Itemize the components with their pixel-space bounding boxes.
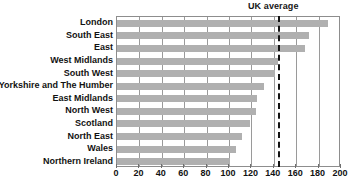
bar-series: [117, 17, 339, 166]
x-tick-label: 20: [133, 168, 143, 178]
uk-average-annotation-label: UK average: [248, 1, 299, 11]
x-tick-label: 180: [310, 168, 325, 178]
category-label: Scotland: [75, 118, 113, 128]
category-label: East Midlands: [52, 93, 113, 103]
x-tick-label: 40: [156, 168, 166, 178]
category-label: Wales: [87, 143, 113, 153]
category-label: North West: [65, 105, 113, 115]
bar-row: [117, 108, 339, 115]
bar-chart: UK average LondonSouth EastEastWest Midl…: [0, 0, 355, 191]
category-label: South East: [66, 30, 113, 40]
bar: [117, 70, 275, 77]
category-label: South West: [64, 68, 113, 78]
x-tick-label: 140: [265, 168, 280, 178]
bar-row: [117, 95, 339, 102]
category-axis-labels: LondonSouth EastEastWest MidlandsSouth W…: [0, 16, 113, 167]
bar: [117, 158, 230, 165]
bar: [117, 120, 250, 127]
bar-row: [117, 83, 339, 90]
bar-row: [117, 120, 339, 127]
bar-row: [117, 133, 339, 140]
bar: [117, 83, 264, 90]
bar-row: [117, 146, 339, 153]
bar: [117, 133, 242, 140]
category-label: Northern Ireland: [43, 156, 113, 166]
bar-row: [117, 58, 339, 65]
bar-row: [117, 45, 339, 52]
category-label: North East: [67, 131, 113, 141]
x-tick-label: 120: [243, 168, 258, 178]
x-tick-label: 200: [332, 168, 347, 178]
bar-row: [117, 70, 339, 77]
x-tick-label: 100: [220, 168, 235, 178]
bar: [117, 20, 328, 27]
category-label: Yorkshire and The Humber: [0, 80, 113, 90]
bar-row: [117, 32, 339, 39]
x-tick-label: 160: [288, 168, 303, 178]
x-tick-label: 0: [113, 168, 118, 178]
bar: [117, 45, 305, 52]
bar: [117, 146, 236, 153]
x-tick-label: 60: [178, 168, 188, 178]
plot-area: [116, 16, 340, 167]
bar: [117, 108, 256, 115]
category-label: West Midlands: [50, 55, 113, 65]
category-label: London: [80, 17, 113, 27]
bar: [117, 95, 257, 102]
uk-average-line: [278, 16, 280, 167]
category-label: East: [94, 42, 113, 52]
bar: [117, 58, 278, 65]
bar-row: [117, 20, 339, 27]
x-axis-tick-labels: 020406080100120140160180200: [116, 168, 340, 182]
x-tick-label: 80: [201, 168, 211, 178]
